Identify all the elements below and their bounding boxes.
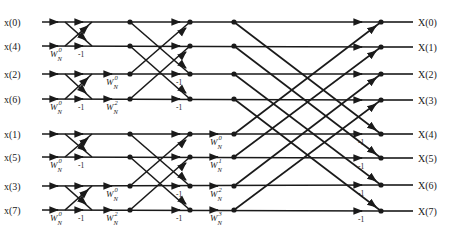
- input-label-2: x(2): [4, 69, 21, 81]
- minus-one-label: -1: [176, 103, 182, 112]
- minus-one-label: -1: [358, 215, 364, 224]
- arrow-icon: [373, 205, 376, 207]
- node-dot: [127, 131, 132, 136]
- node-dot: [127, 71, 132, 76]
- node-dot: [127, 154, 132, 159]
- wire: [42, 157, 381, 158]
- arrow-icon: [85, 78, 88, 81]
- minus-one-label: -1: [358, 162, 364, 171]
- minus-one-label: -1: [176, 78, 182, 87]
- arrow-icon: [373, 51, 376, 53]
- node-dot: [231, 207, 236, 212]
- node-dot: [231, 154, 236, 159]
- node-dot: [231, 43, 236, 48]
- node-dot: [187, 96, 192, 101]
- twiddle-subscript: N: [217, 195, 223, 202]
- minus-one-label: -1: [78, 161, 84, 170]
- node-dot: [378, 44, 383, 49]
- labels: x(0)x(4)x(2)x(6)x(1)x(5)x(3)x(7)X(0)X(1)…: [4, 17, 437, 227]
- twiddle-subscript: N: [113, 219, 119, 226]
- stage1-twiddle: W0N: [50, 210, 63, 226]
- node-dot: [127, 43, 132, 48]
- arrow-icon: [373, 179, 376, 181]
- output-label-1: X(1): [418, 42, 437, 54]
- stage3-twiddle: W1N: [210, 157, 223, 173]
- output-label-6: X(6): [418, 180, 437, 192]
- minus-one-label: -1: [358, 138, 364, 147]
- twiddle-subscript: N: [217, 143, 223, 150]
- twiddle-subscript: N: [217, 219, 223, 226]
- arrow-icon: [373, 104, 376, 106]
- input-label-4: x(1): [4, 129, 21, 141]
- stage2-twiddle: W2N: [106, 99, 119, 115]
- arrow-icon: [373, 152, 376, 154]
- output-label-3: X(3): [418, 95, 437, 107]
- output-label-5: X(5): [418, 153, 437, 165]
- output-label-0: X(0): [418, 17, 437, 29]
- node-dot: [187, 19, 192, 24]
- arrow-icon: [85, 138, 88, 141]
- arrow-icon: [85, 26, 88, 29]
- node-dot: [187, 207, 192, 212]
- twiddle-subscript: N: [113, 195, 119, 202]
- node-dot: [187, 43, 192, 48]
- twiddle-exponent: 0: [219, 134, 223, 141]
- twiddle-exponent: 0: [59, 157, 63, 164]
- node-dot: [231, 183, 236, 188]
- node-dot: [378, 19, 383, 24]
- node-dot: [378, 131, 383, 136]
- stage2-twiddle: W0N: [106, 186, 119, 202]
- arrow-icon: [83, 201, 86, 204]
- input-label-6: x(3): [4, 181, 21, 193]
- wire: [42, 210, 381, 211]
- twiddle-subscript: N: [57, 166, 63, 173]
- wire: [42, 46, 381, 47]
- input-label-3: x(6): [4, 94, 21, 106]
- output-label-7: X(7): [418, 206, 437, 218]
- twiddle-subscript: N: [57, 219, 63, 226]
- twiddle-exponent: 0: [115, 74, 119, 81]
- wire: [42, 185, 381, 186]
- twiddle-exponent: 0: [115, 186, 119, 193]
- stage1-twiddle: W0N: [50, 157, 63, 173]
- twiddle-exponent: 0: [59, 46, 63, 53]
- node-dot: [187, 183, 192, 188]
- output-label-2: X(2): [418, 69, 437, 81]
- signal-flow-wires: [42, 22, 413, 211]
- arrow-icon: [373, 78, 376, 80]
- minus-one-label: -1: [78, 103, 84, 112]
- input-label-1: x(4): [4, 41, 21, 53]
- fft-butterfly-diagram: x(0)x(4)x(2)x(6)x(1)x(5)x(3)x(7)X(0)X(1)…: [0, 0, 456, 239]
- twiddle-subscript: N: [113, 108, 119, 115]
- node-dot: [187, 154, 192, 159]
- node-dot: [231, 131, 236, 136]
- twiddle-subscript: N: [113, 83, 119, 90]
- twiddle-exponent: 0: [59, 210, 63, 217]
- output-label-4: X(4): [418, 129, 437, 141]
- stage3-twiddle: W3N: [210, 210, 223, 226]
- stage2-twiddle: W0N: [106, 74, 119, 90]
- twiddle-exponent: 2: [115, 99, 119, 106]
- twiddle-subscript: N: [217, 166, 223, 173]
- stage1-twiddle: W0N: [50, 46, 63, 62]
- node-dot: [127, 19, 132, 24]
- arrow-icon: [373, 26, 376, 28]
- arrow-icon: [85, 190, 88, 193]
- minus-one-label: -1: [176, 190, 182, 199]
- node-dot: [378, 97, 383, 102]
- twiddle-subscript: N: [57, 108, 63, 115]
- arrow-icon: [83, 37, 86, 40]
- node-dot: [231, 96, 236, 101]
- node-dot: [378, 71, 383, 76]
- stage3-twiddle: W0N: [210, 134, 223, 150]
- arrow-icon: [83, 90, 86, 93]
- node-dot: [378, 208, 383, 213]
- stage1-twiddle: W0N: [50, 99, 63, 115]
- node-dot: [231, 19, 236, 24]
- node-dot: [378, 155, 383, 160]
- node-dot: [127, 207, 132, 212]
- node-dot: [127, 183, 132, 188]
- node-dot: [187, 71, 192, 76]
- input-label-7: x(7): [4, 205, 21, 217]
- twiddle-exponent: 0: [59, 99, 63, 106]
